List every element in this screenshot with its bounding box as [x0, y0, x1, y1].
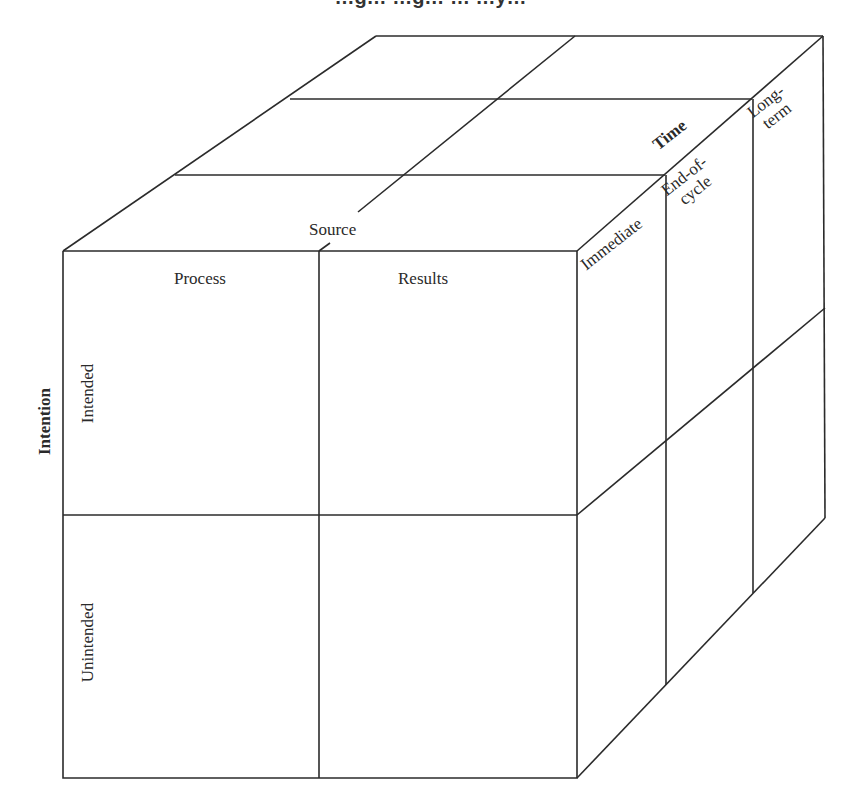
source-axis-label: Source [309, 221, 356, 238]
intention-axis-label: Intention [36, 382, 53, 462]
intention-category-unintended: Unintended [79, 600, 96, 686]
top-face [63, 36, 823, 251]
intention-category-intended: Intended [79, 359, 96, 429]
right-face [577, 36, 825, 778]
front-face [63, 251, 577, 778]
cube-diagram [0, 0, 861, 804]
source-category-results: Results [398, 270, 448, 287]
source-category-process: Process [174, 270, 226, 287]
